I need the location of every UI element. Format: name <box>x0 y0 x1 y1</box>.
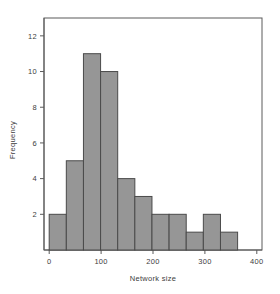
histogram-bar <box>152 214 169 250</box>
histogram-bar <box>135 196 152 250</box>
x-axis-tick-label: 300 <box>198 257 211 266</box>
histogram-bar <box>186 232 203 250</box>
x-axis-tick-label: 200 <box>146 257 159 266</box>
y-axis-tick-label: 2 <box>33 210 37 219</box>
histogram-bar <box>66 161 83 250</box>
histogram-figure: 24681012 0100200300400 Network size Freq… <box>0 0 280 294</box>
y-axis-tick-label: 10 <box>28 67 37 76</box>
x-axis-title: Network size <box>130 274 177 283</box>
histogram-bar <box>203 214 220 250</box>
histogram-bar <box>220 232 237 250</box>
y-axis-title: Frequency <box>8 121 17 159</box>
y-axis-tick-label: 4 <box>33 174 37 183</box>
y-axis-tick-label: 6 <box>33 139 37 148</box>
x-axis-tick-label: 100 <box>94 257 107 266</box>
histogram-bar <box>101 72 118 250</box>
histogram-bar <box>49 214 66 250</box>
histogram-bar <box>83 54 100 250</box>
y-axis-tick-label: 12 <box>28 32 37 41</box>
x-axis-tick-label: 400 <box>250 257 263 266</box>
x-axis-tick-label: 0 <box>47 257 51 266</box>
histogram-bar <box>118 179 135 250</box>
histogram-bar <box>169 214 186 250</box>
y-axis-tick-label: 8 <box>33 103 37 112</box>
